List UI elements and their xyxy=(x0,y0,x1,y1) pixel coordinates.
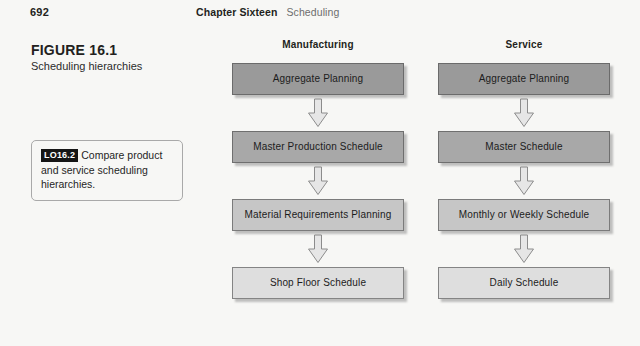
down-block-arrow-icon xyxy=(307,234,329,264)
flow-box-label: Daily Schedule xyxy=(490,277,559,289)
flow-box-manufacturing-4: Shop Floor Schedule xyxy=(232,267,404,299)
flow-arrow-service-3 xyxy=(438,231,610,267)
figure-number: FIGURE 16.1 xyxy=(31,42,201,58)
down-block-arrow-icon xyxy=(513,166,535,196)
running-head-subject: Scheduling xyxy=(286,6,339,18)
flow-box-service-1: Aggregate Planning xyxy=(438,63,610,95)
down-block-arrow-icon xyxy=(513,98,535,128)
down-block-arrow-icon xyxy=(307,166,329,196)
flow-column-service: Service Aggregate Planning Master Schedu… xyxy=(438,38,610,299)
flow-box-manufacturing-3: Material Requirements Planning xyxy=(232,199,404,231)
flow-arrow-manufacturing-3 xyxy=(232,231,404,267)
column-title-service: Service xyxy=(438,38,610,52)
figure-caption: Scheduling hierarchies xyxy=(31,59,201,74)
flow-box-label: Material Requirements Planning xyxy=(245,209,392,221)
flow-arrow-manufacturing-1 xyxy=(232,95,404,131)
flow-box-manufacturing-1: Aggregate Planning xyxy=(232,63,404,95)
down-block-arrow-icon xyxy=(307,98,329,128)
flow-column-manufacturing: Manufacturing Aggregate Planning Master … xyxy=(232,38,404,299)
flow-box-manufacturing-2: Master Production Schedule xyxy=(232,131,404,163)
flow-box-service-3: Monthly or Weekly Schedule xyxy=(438,199,610,231)
flow-box-label: Master Production Schedule xyxy=(253,141,383,153)
page-number: 692 xyxy=(30,6,49,18)
running-head: Chapter SixteenScheduling xyxy=(196,6,339,18)
learning-objective-text: LO16.2Compare product and service schedu… xyxy=(41,148,174,192)
figure-label: FIGURE 16.1 Scheduling hierarchies xyxy=(31,42,201,74)
flow-arrow-service-1 xyxy=(438,95,610,131)
flow-box-label: Monthly or Weekly Schedule xyxy=(459,209,589,221)
down-block-arrow-icon xyxy=(513,234,535,264)
flow-box-label: Aggregate Planning xyxy=(273,73,364,85)
flow-arrow-service-2 xyxy=(438,163,610,199)
learning-objective-badge: LO16.2 xyxy=(41,149,78,162)
column-title-manufacturing: Manufacturing xyxy=(232,38,404,52)
flow-arrow-manufacturing-2 xyxy=(232,163,404,199)
page-header: 692 Chapter SixteenScheduling xyxy=(0,6,640,24)
learning-objective-box: LO16.2Compare product and service schedu… xyxy=(31,140,183,201)
flow-box-service-2: Master Schedule xyxy=(438,131,610,163)
flow-box-label: Master Schedule xyxy=(485,141,562,153)
running-head-chapter: Chapter Sixteen xyxy=(196,6,277,18)
flow-box-label: Aggregate Planning xyxy=(479,73,570,85)
flow-box-label: Shop Floor Schedule xyxy=(270,277,366,289)
flow-box-service-4: Daily Schedule xyxy=(438,267,610,299)
